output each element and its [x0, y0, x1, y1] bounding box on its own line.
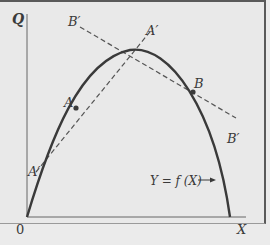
y-axis-label: Q	[12, 11, 24, 27]
b-prime-bottom-label: B′	[226, 131, 240, 146]
point-a-marker	[73, 105, 78, 110]
a-prime-bottom-label: A′	[27, 164, 40, 179]
curve-function-label: Y = f (X)	[150, 174, 202, 188]
tangent-line-b	[80, 27, 236, 118]
b-prime-top-label: B′	[67, 14, 81, 29]
arrow-head-icon	[210, 178, 216, 183]
point-a-label: A	[63, 95, 73, 110]
origin-label: 0	[16, 222, 24, 237]
production-curve-diagram: Q X 0 A B A′ A′ B′ B′ Y = f (X)	[0, 0, 270, 245]
x-axis-label: X	[236, 222, 247, 237]
production-curve	[27, 50, 230, 217]
point-b-label: B	[193, 76, 204, 91]
a-prime-top-label: A′	[145, 23, 158, 38]
